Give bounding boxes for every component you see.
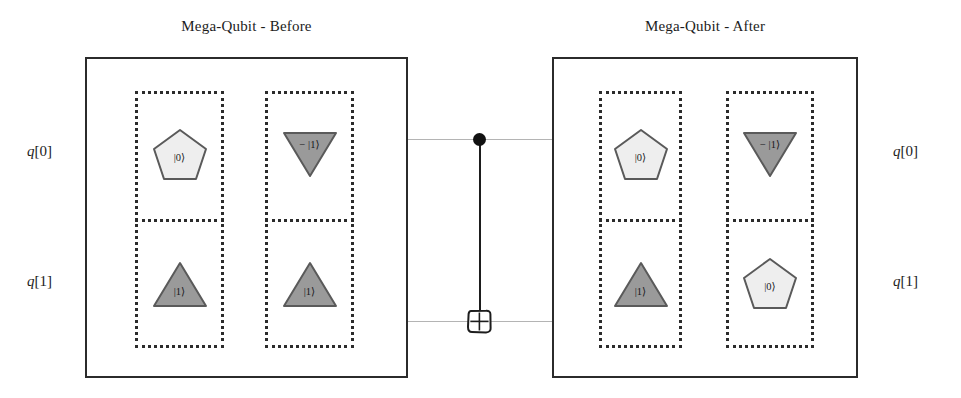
state-shape-triangle-up: |1⟩: [279, 255, 341, 313]
cnot-connector: [479, 139, 481, 321]
wire-label-left-q0: q[0]: [27, 143, 52, 160]
wire-label-right-q0: q[0]: [893, 143, 918, 160]
cnot-target-icon[interactable]: [466, 308, 493, 335]
panel-title-before: Mega-Qubit - Before: [85, 18, 408, 35]
state-shape-pentagon: |0⟩: [149, 126, 211, 184]
state-shape-triangle-up: |1⟩: [149, 255, 211, 313]
wire-label-right-q0-name: q: [893, 143, 901, 159]
wire-label-right-q1: q[1]: [893, 273, 918, 290]
cell-before-r0-q1: |1⟩: [135, 220, 224, 348]
panel-after: |0⟩ |1⟩ − |1⟩: [552, 57, 858, 378]
state-shape-triangle-down: − |1⟩: [279, 126, 341, 184]
wire-label-left-q1: q[1]: [27, 273, 52, 290]
wire-label-left-q0-index: [0]: [35, 143, 53, 159]
state-shape-triangle-up: |1⟩: [610, 255, 672, 313]
cell-after-r0-q0: |0⟩: [599, 91, 682, 219]
wire-label-left-q0-name: q: [27, 143, 35, 159]
panel-title-after: Mega-Qubit - After: [552, 18, 858, 35]
state-shape-pentagon: |0⟩: [610, 126, 672, 184]
state-shape-pentagon: |0⟩: [739, 255, 801, 313]
wire-label-right-q1-index: [1]: [901, 273, 919, 289]
cell-before-r0-q0: |0⟩: [135, 91, 224, 219]
wire-label-left-q1-name: q: [27, 273, 35, 289]
panel-before: |0⟩ |1⟩ − |1⟩: [85, 57, 408, 378]
quantum-circuit-diagram: Mega-Qubit - Before Mega-Qubit - After q…: [0, 0, 961, 398]
cell-before-r1-q1: |1⟩: [265, 220, 354, 348]
cell-after-r1-q0: − |1⟩: [726, 91, 814, 219]
cell-before-r1-q0: − |1⟩: [265, 91, 354, 219]
cnot-control-dot[interactable]: [473, 133, 486, 146]
wire-label-right-q0-index: [0]: [901, 143, 919, 159]
cell-after-r1-q1: |0⟩: [726, 220, 814, 348]
wire-label-right-q1-name: q: [893, 273, 901, 289]
wire-label-left-q1-index: [1]: [35, 273, 53, 289]
state-shape-triangle-down: − |1⟩: [739, 126, 801, 184]
cell-after-r0-q1: |1⟩: [599, 220, 682, 348]
